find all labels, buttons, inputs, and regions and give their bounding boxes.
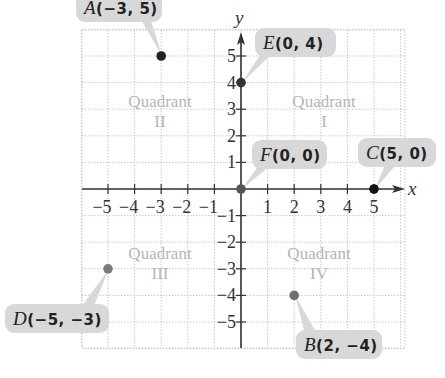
quadrant-name: Quadrant xyxy=(274,92,374,112)
quadrant-label-iii: Quadrant III xyxy=(110,244,210,284)
y-tick-label: −1 xyxy=(217,206,236,226)
point-letter: A xyxy=(84,0,96,18)
point-b-dot-icon xyxy=(289,291,299,301)
point-a-dot-icon xyxy=(156,51,166,61)
y-tick-label: −3 xyxy=(217,259,236,279)
point-coords: (−5, −3) xyxy=(27,311,102,329)
y-tick-label: −4 xyxy=(217,285,236,305)
callout-tail xyxy=(82,269,109,306)
y-tick-label: 4 xyxy=(227,73,236,93)
callout-tail xyxy=(140,18,162,56)
quadrant-name: Quadrant xyxy=(110,92,210,112)
axes: xy−5−4−3−2−11234554321−1−2−3−4−5 xyxy=(82,7,417,348)
y-tick-label: −5 xyxy=(217,312,236,332)
x-axis-label: x xyxy=(407,178,417,199)
quadrant-label-iv: Quadrant IV xyxy=(269,244,369,284)
x-tick-label: −4 xyxy=(119,197,138,217)
point-letter: E xyxy=(263,32,275,53)
point-coords: (0, 4) xyxy=(275,35,324,53)
x-tick-label: 4 xyxy=(343,197,352,217)
x-tick-label: 1 xyxy=(263,197,272,217)
callout-point-b: B(2, −4) xyxy=(296,330,382,359)
y-tick-label: 1 xyxy=(227,152,236,172)
callout-point-f: F(0, 0) xyxy=(252,140,327,169)
x-tick-label: 3 xyxy=(316,197,325,217)
x-tick-label: −3 xyxy=(146,197,165,217)
callout-point-d: D(−5, −3) xyxy=(5,304,109,333)
x-tick-label: −1 xyxy=(199,197,218,217)
point-coords: (−3, 5) xyxy=(96,0,158,18)
callout-tails xyxy=(82,18,396,334)
callout-point-c: C(5, 0) xyxy=(358,138,436,167)
point-letter: F xyxy=(260,144,272,165)
y-tick-label: 2 xyxy=(227,126,236,146)
point-coords: (2, −4) xyxy=(316,337,378,355)
quadrant-name: Quadrant xyxy=(110,244,210,264)
x-tick-label: 5 xyxy=(370,197,379,217)
y-tick-label: −2 xyxy=(217,232,236,252)
point-letter: D xyxy=(13,308,27,329)
callout-point-e: E(0, 4) xyxy=(255,28,336,57)
quadrant-numeral: IV xyxy=(269,264,369,284)
coordinate-plane-diagram: xy−5−4−3−2−11234554321−1−2−3−4−5 Quadran… xyxy=(0,0,445,378)
point-letter: C xyxy=(366,142,379,163)
x-tick-label: 2 xyxy=(290,197,299,217)
quadrant-label-i: Quadrant I xyxy=(274,92,374,132)
point-coords: (5, 0) xyxy=(379,145,428,163)
point-c-dot-icon xyxy=(369,184,379,194)
point-f-dot-icon xyxy=(236,184,246,194)
y-tick-label: 3 xyxy=(227,99,236,119)
x-tick-label: −5 xyxy=(92,197,111,217)
point-e-dot-icon xyxy=(236,78,246,88)
quadrant-numeral: II xyxy=(110,112,210,132)
y-axis-label: y xyxy=(233,7,244,28)
callout-tail xyxy=(242,166,270,189)
point-letter: B xyxy=(304,334,316,355)
y-tick-label: 5 xyxy=(227,46,236,66)
point-coords: (0, 0) xyxy=(272,147,321,165)
x-tick-label: −2 xyxy=(172,197,191,217)
callout-point-a: A(−3, 5) xyxy=(76,0,162,22)
quadrant-numeral: III xyxy=(110,264,210,284)
quadrant-numeral: I xyxy=(274,112,374,132)
quadrant-name: Quadrant xyxy=(269,244,369,264)
quadrant-label-ii: Quadrant II xyxy=(110,92,210,132)
callout-tail xyxy=(295,295,317,334)
